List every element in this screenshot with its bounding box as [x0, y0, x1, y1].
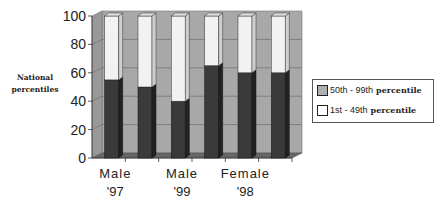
svg-text:'97: '97	[107, 184, 124, 199]
legend-suffix-upper: percentile	[376, 85, 422, 95]
svg-text:Female: Female	[221, 166, 270, 181]
svg-text:'99: '99	[174, 184, 191, 199]
svg-text:0: 0	[78, 150, 86, 166]
svg-text:Male: Male	[99, 166, 131, 181]
svg-text:100: 100	[63, 8, 87, 24]
legend-label-lower: 1st - 49th	[330, 105, 368, 115]
legend: 50th - 99th percentile 1st - 49th percen…	[312, 79, 434, 123]
legend-label-upper: 50th - 99th	[330, 85, 373, 95]
svg-text:Male: Male	[166, 166, 198, 181]
svg-text:20: 20	[70, 122, 86, 138]
legend-item-lower: 1st - 49th percentile	[313, 100, 433, 120]
legend-swatch-lower	[317, 105, 328, 116]
legend-swatch-upper	[317, 85, 328, 96]
svg-text:'98: '98	[237, 184, 254, 199]
legend-suffix-lower: percentile	[371, 105, 417, 115]
svg-text:40: 40	[70, 93, 86, 109]
svg-text:60: 60	[70, 65, 86, 81]
legend-item-upper: 50th - 99th percentile	[313, 80, 433, 100]
svg-text:80: 80	[70, 36, 86, 52]
